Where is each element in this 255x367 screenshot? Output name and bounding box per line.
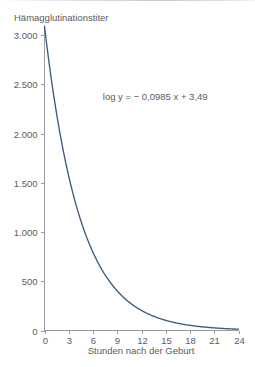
y-tick-label: 2.000 (14, 129, 38, 140)
y-tick-label: 500 (22, 276, 38, 287)
y-tick-label: 0 (32, 326, 37, 337)
exponential-decay-curve (45, 26, 239, 329)
y-axis-title: Hämagglutinationstiter (14, 12, 109, 23)
x-tick-label: 24 (234, 335, 245, 346)
equation-annotation: log y = − 0,0985 x + 3,49 (103, 91, 208, 102)
x-tick-label: 21 (209, 335, 220, 346)
y-tick-label: 1.500 (14, 178, 38, 189)
chart-plot-area: Hämagglutinationstiter 05001.0001.5002.0… (0, 0, 255, 367)
x-tick-label: 0 (43, 335, 48, 346)
y-axis: 05001.0001.5002.0002.5003.000 (14, 28, 45, 337)
x-tick-label: 3 (67, 335, 72, 346)
x-axis: 03691215182124 (43, 331, 245, 347)
y-tick-label: 2.500 (14, 79, 38, 90)
y-tick-group: 05001.0001.5002.0002.5003.000 (14, 30, 45, 337)
y-tick-label: 1.000 (14, 227, 38, 238)
y-tick-label: 3.000 (14, 30, 38, 41)
x-tick-group: 03691215182124 (43, 331, 245, 347)
chart-figure: Hämagglutinationstiter 05001.0001.5002.0… (0, 0, 255, 367)
x-axis-title: Stunden nach der Geburt (88, 345, 195, 356)
